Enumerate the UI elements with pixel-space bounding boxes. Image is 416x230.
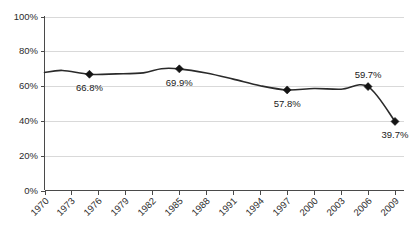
- data-point-label: 69.9%: [166, 77, 193, 88]
- x-axis-tick-label: 2003: [324, 195, 347, 218]
- x-axis-tick-label: 2009: [378, 195, 401, 218]
- y-axis-tick-label: 100%: [14, 11, 39, 22]
- y-axis-tick-label: 60%: [19, 80, 39, 91]
- data-point-label: 59.7%: [355, 69, 382, 80]
- x-axis-tick-label: 1994: [243, 195, 266, 218]
- y-axis-tick-label: 0%: [24, 185, 38, 196]
- x-axis-tick-label: 1979: [108, 195, 131, 218]
- x-axis-tick-label: 1991: [216, 195, 239, 218]
- y-axis-tick-label: 20%: [19, 150, 39, 161]
- x-axis-tick-label: 1988: [189, 195, 212, 218]
- x-axis-tick-label: 2000: [297, 195, 320, 218]
- data-point-label: 57.8%: [274, 98, 301, 109]
- x-axis-tick-label: 2006: [351, 195, 374, 218]
- data-point-labels: 66.8%69.9%57.8%59.7%39.7%: [76, 69, 409, 141]
- y-axis-tick-label: 80%: [19, 45, 39, 56]
- line-chart: 0%20%40%60%80%100% 197019731976197919821…: [0, 0, 416, 230]
- x-axis-tick-marks: [46, 191, 396, 195]
- data-point-label: 39.7%: [382, 129, 409, 140]
- data-line-series-1: [45, 68, 396, 121]
- data-point-marker: [175, 65, 183, 73]
- chart-canvas: 0%20%40%60%80%100% 197019731976197919821…: [0, 0, 416, 230]
- y-axis-tick-label: 40%: [19, 115, 39, 126]
- data-point-marker: [85, 70, 93, 78]
- x-axis-tick-label: 1970: [28, 195, 51, 218]
- x-axis-tick-labels: 1970197319761979198219851988199119941997…: [28, 195, 401, 218]
- x-axis-tick-label: 1973: [54, 195, 77, 218]
- data-point-label: 66.8%: [76, 82, 103, 93]
- x-axis-tick-label: 1997: [270, 195, 293, 218]
- x-axis-tick-label: 1982: [135, 195, 158, 218]
- x-axis-tick-label: 1976: [81, 195, 104, 218]
- y-axis-tick-labels: 0%20%40%60%80%100%: [14, 11, 39, 196]
- x-axis-tick-label: 1985: [162, 195, 185, 218]
- data-point-marker: [283, 86, 291, 94]
